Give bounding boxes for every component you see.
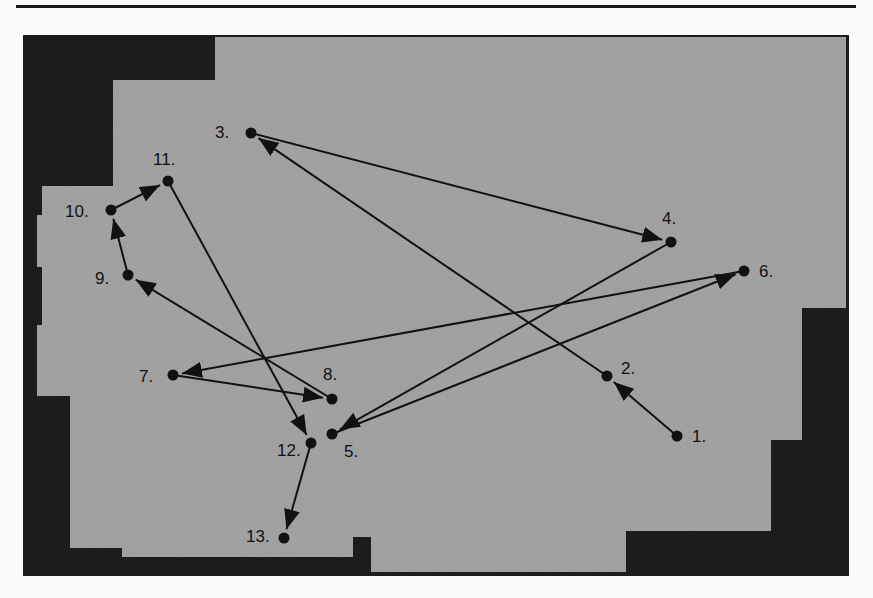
point-3-label: 3. <box>215 123 229 142</box>
point-9-dot <box>123 270 134 281</box>
point-9-label: 9. <box>95 269 109 288</box>
point-13-label: 13. <box>246 527 270 546</box>
point-8-dot <box>327 394 338 405</box>
point-7-label: 7. <box>139 367 153 386</box>
point-12-label: 12. <box>277 441 301 460</box>
point-5-label: 5. <box>344 442 358 461</box>
point-2-dot <box>602 371 613 382</box>
point-13-dot <box>279 533 290 544</box>
point-8-label: 8. <box>323 365 337 384</box>
point-3-dot <box>246 128 257 139</box>
point-11-label: 11. <box>153 150 175 169</box>
floor-plan: 1.2.3.4.5.6.7.8.9.10.11.12.13. <box>0 0 873 598</box>
point-2-label: 2. <box>621 359 635 378</box>
point-11-dot <box>163 176 174 187</box>
point-6-dot <box>739 266 750 277</box>
point-4-dot <box>666 237 677 248</box>
point-12-dot <box>306 438 317 449</box>
point-10-dot <box>106 205 117 216</box>
point-4-label: 4. <box>662 209 676 228</box>
point-6-label: 6. <box>759 262 773 281</box>
point-7-dot <box>168 370 179 381</box>
point-10-label: 10. <box>65 202 89 221</box>
point-1-label: 1. <box>692 427 706 446</box>
point-1-dot <box>672 431 683 442</box>
point-5-dot <box>327 429 338 440</box>
floor-area <box>37 37 846 572</box>
